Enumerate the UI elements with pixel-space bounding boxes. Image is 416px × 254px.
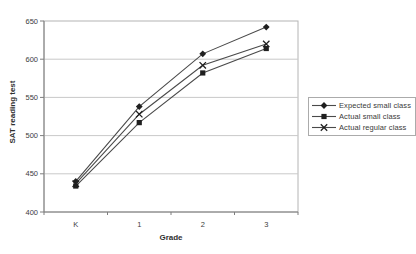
y-axis-title: SAT reading test xyxy=(8,81,17,144)
legend-marker-diamond-icon xyxy=(312,101,336,110)
legend-item: Actual regular class xyxy=(312,122,411,133)
data-point-marker-square xyxy=(200,70,205,75)
legend-label: Actual regular class xyxy=(339,123,406,132)
legend-item: Expected small class xyxy=(312,100,411,111)
legend-item: Actual small class xyxy=(312,111,411,122)
x-category-label: K xyxy=(73,220,78,229)
x-axis-title: Grade xyxy=(159,233,182,242)
y-tick-label: 650 xyxy=(25,17,38,26)
data-point-marker-square xyxy=(137,120,142,125)
legend-label: Actual small class xyxy=(339,112,400,121)
data-point-marker-square xyxy=(264,46,269,51)
legend-label: Expected small class xyxy=(339,101,411,110)
legend-marker-x-icon xyxy=(312,123,336,132)
sat-reading-line-chart: 400450500550600650K123 SAT reading test … xyxy=(0,0,416,254)
legend-marker-square-icon xyxy=(312,112,336,121)
data-point-marker-square xyxy=(321,114,326,119)
x-category-label: 3 xyxy=(264,220,268,229)
x-category-label: 2 xyxy=(201,220,205,229)
y-tick-label: 550 xyxy=(25,93,38,102)
y-tick-label: 600 xyxy=(25,55,38,64)
y-tick-label: 450 xyxy=(25,169,38,178)
legend: Expected small classActual small classAc… xyxy=(308,97,416,136)
y-tick-label: 400 xyxy=(25,208,38,217)
x-category-label: 1 xyxy=(137,220,141,229)
y-tick-label: 500 xyxy=(25,131,38,140)
plot-border xyxy=(44,21,298,212)
data-point-marker-diamond xyxy=(321,102,328,109)
